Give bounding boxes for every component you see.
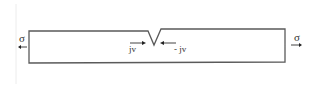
arrow-left-icon	[160, 41, 164, 45]
arrow-right-icon	[299, 43, 302, 47]
arrow-left-icon	[18, 45, 21, 49]
right-flux-label: - jv	[174, 44, 187, 54]
left-flux-label: jv	[128, 44, 137, 54]
notched-bar	[29, 29, 285, 63]
right-stress-arrow	[291, 43, 302, 47]
right-stress-label: σ	[294, 31, 300, 43]
arrow-right-icon	[142, 41, 146, 45]
left-stress-label: σ	[19, 32, 25, 44]
left-stress-arrow	[18, 45, 27, 49]
notched-bar-diagram: σ σ jv - jv	[0, 0, 317, 87]
